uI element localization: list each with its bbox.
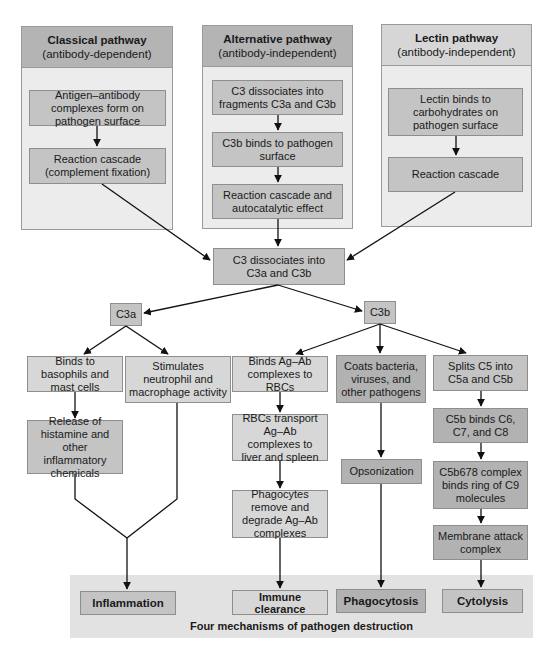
binds-basophils-box: Binds to basophils and mast cells [27,356,123,392]
lectin-pathway-subtitle: (antibody-independent) [397,46,515,58]
classical-pathway-header: Classical pathway (antibody-dependent) [22,27,172,68]
alternative-step-2: C3b binds to pathogen surface [212,132,343,167]
alternative-pathway-title: Alternative pathway [203,32,352,46]
c3-dissociates-box: C3 dissociates into C3a and C3b [213,248,345,285]
lectin-pathway-title: Lectin pathway [382,31,531,45]
lectin-step-2: Reaction cascade [388,157,523,192]
alternative-step-3: Reaction cascade and autocatalytic effec… [212,184,343,219]
stimulates-neutrophil-box: Stimulates neutrophil and macrophage act… [125,356,231,403]
splits-c5-box: Splits C5 into C5a and C5b [433,355,528,391]
c3a-box: C3a [110,303,142,326]
phagocytes-remove-box: Phagocytes remove and degrade Ag–Ab comp… [232,490,328,538]
c3b-box: C3b [364,301,396,324]
classical-step-2: Reaction cascade (complement fixation) [29,148,166,184]
classical-pathway-subtitle: (antibody-dependent) [42,48,151,60]
c5b678-complex-box: C5b678 complex binds ring of C9 molecule… [433,461,528,509]
classical-pathway-panel: Classical pathway (antibody-dependent) [21,26,173,230]
alternative-pathway-header: Alternative pathway (antibody-independen… [203,26,352,67]
outcome-immune-clearance: Immune clearance [232,590,328,615]
lectin-step-1: Lectin binds to carbohydrates on pathoge… [388,88,523,136]
coats-bacteria-box: Coats bacteria, viruses, and other patho… [336,355,426,403]
binds-agab-rbc-box: Binds Ag–Ab complexes to RBCs [232,356,328,392]
alternative-step-1: C3 dissociates into fragments C3a and C3… [212,80,343,115]
release-histamine-box: Release of histamine and other inflammat… [27,420,123,474]
membrane-attack-complex-box: Membrane attack complex [433,525,528,560]
rbcs-transport-box: RBCs transport Ag–Ab complexes to liver … [232,414,328,461]
c5b-binds-box: C5b binds C6, C7, and C8 [433,408,528,443]
lectin-pathway-header: Lectin pathway (antibody-independent) [382,25,531,66]
alternative-pathway-subtitle: (antibody-independent) [218,47,336,59]
opsonization-box: Opsonization [341,459,422,484]
outcome-phagocytosis: Phagocytosis [336,589,426,613]
outcome-cytolysis: Cytolysis [442,589,523,613]
classical-pathway-title: Classical pathway [22,33,172,47]
classical-step-1: Antigen–antibody complexes form on patho… [29,90,166,126]
outcomes-caption: Four mechanisms of pathogen destruction [70,620,533,632]
outcome-inflammation: Inflammation [80,591,176,615]
